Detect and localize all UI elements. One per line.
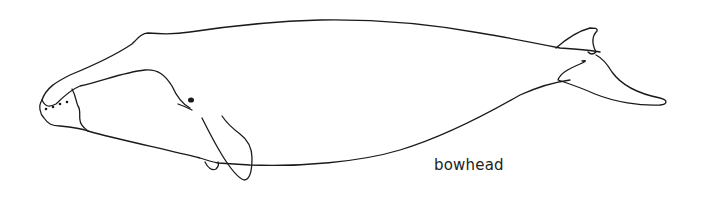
rostrum-outline	[42, 70, 190, 108]
species-caption: bowhead	[434, 156, 504, 174]
flipper-outline	[202, 116, 252, 180]
chin-patch-boundary	[72, 89, 88, 131]
chin-outline	[40, 100, 88, 131]
whale-illustration	[0, 0, 702, 201]
eye-icon	[188, 97, 194, 102]
back-outline	[42, 20, 600, 100]
belly-outline	[88, 80, 570, 165]
tail-lower-fluke	[558, 55, 666, 105]
